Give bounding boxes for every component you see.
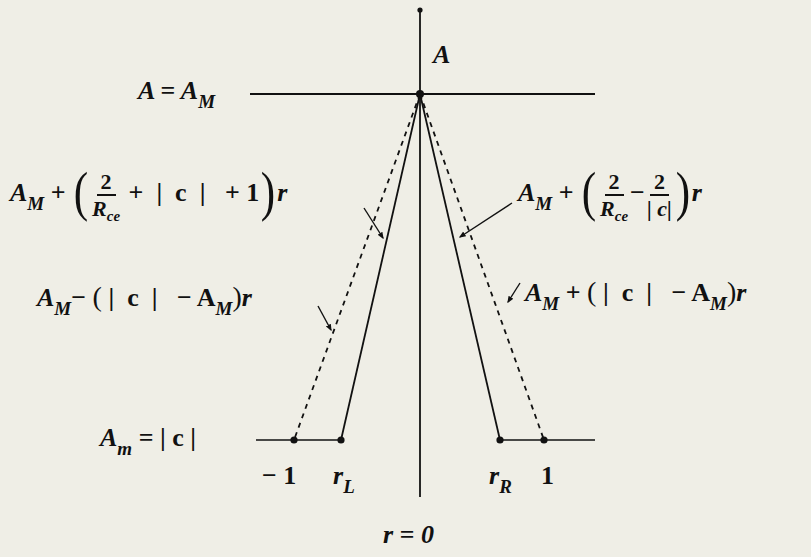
- label-op: +: [559, 178, 574, 207]
- fraction: 2Rce: [92, 171, 120, 220]
- pointer-arrow-right-dashed: [508, 283, 520, 302]
- vertical-axis-label: A: [433, 42, 450, 68]
- top-level-eq: =: [160, 76, 175, 105]
- solid-line-right: [420, 94, 500, 440]
- label-base-sub: M: [27, 193, 44, 214]
- top-level-rhs-sub: M: [198, 91, 215, 112]
- solid-line-left: [341, 94, 420, 440]
- tick-label-one: 1: [541, 463, 554, 489]
- pointer-arrow-left-dashed: [318, 306, 331, 330]
- label-var: r: [692, 178, 702, 207]
- close-paren: ): [261, 165, 275, 219]
- open-paren: (: [587, 276, 596, 307]
- top-level-label: A = AM: [138, 78, 215, 104]
- frac-num: 2: [97, 171, 116, 196]
- label-inner: | c | − A: [108, 283, 215, 312]
- fraction-2: 2| c|: [647, 171, 672, 220]
- dashed-line-left: [294, 94, 420, 440]
- axis-arrow-dot: [417, 7, 422, 12]
- label-var: r: [277, 178, 287, 207]
- top-level-lhs: A: [138, 76, 154, 105]
- dot-one: [540, 436, 547, 443]
- fraction-1: 2Rce: [600, 171, 628, 220]
- pointer-arrow-left-solid: [364, 208, 383, 238]
- close-paren: ): [232, 281, 241, 312]
- open-paren: (: [74, 165, 88, 219]
- left-solid-line-label: AM + (2Rce + | c | + 1)r: [10, 168, 287, 222]
- label-op: −: [71, 283, 86, 312]
- dashed-line-right: [420, 94, 544, 440]
- dot-r-R: [496, 436, 503, 443]
- open-paren: (: [93, 281, 102, 312]
- pointer-arrow-right-solid: [460, 203, 512, 237]
- label-op: +: [51, 178, 66, 207]
- diagram-canvas: A A = AM AM + (2Rce + | c | + 1)r AM + (…: [0, 0, 811, 557]
- tick-label-r-L: rL: [333, 463, 355, 489]
- right-dashed-line-label: AM + ( | c | − AM)r: [525, 278, 746, 306]
- label-inner: | c | − A: [603, 278, 710, 307]
- dot-neg-one: [290, 436, 297, 443]
- horizontal-axis-label: r = 0: [383, 522, 434, 548]
- top-level-rhs: A: [181, 76, 198, 105]
- apex-dot: [416, 90, 424, 98]
- tick-label-r-R: rR: [489, 463, 512, 489]
- left-dashed-line-label: AM− ( | c | − AM)r: [37, 283, 252, 311]
- tick-label-neg-one: − 1: [262, 463, 296, 489]
- minus-sign: −: [630, 178, 645, 207]
- bottom-level-label: Am = | c |: [100, 425, 196, 451]
- close-paren: ): [727, 276, 736, 307]
- frac-den: Rce: [92, 196, 120, 220]
- label-base: A: [518, 178, 535, 207]
- right-solid-line-label: AM + (2Rce−2| c|)r: [518, 168, 702, 222]
- label-base: A: [10, 178, 27, 207]
- label-base-sub: M: [535, 193, 552, 214]
- open-paren: (: [582, 165, 596, 219]
- label-op: +: [566, 278, 581, 307]
- label-rest: + | c | + 1: [129, 178, 260, 207]
- dot-r-L: [337, 436, 344, 443]
- close-paren: ): [676, 165, 690, 219]
